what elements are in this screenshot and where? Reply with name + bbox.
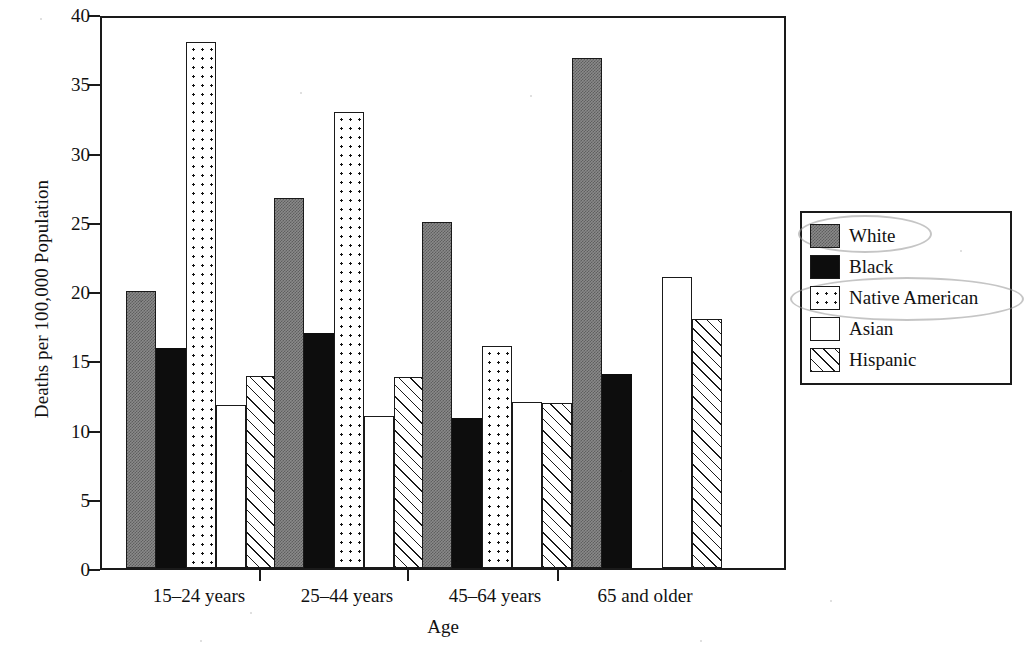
legend-swatch-icon: [810, 317, 840, 341]
legend-item: Hispanic: [810, 344, 1010, 375]
bar: [334, 112, 364, 568]
bar: [602, 374, 632, 568]
bar: [274, 198, 304, 568]
bar: [452, 418, 482, 568]
x-tick-mark: [259, 570, 261, 581]
bar: [542, 403, 572, 568]
legend-label: Hispanic: [849, 350, 917, 369]
legend-item: Asian: [810, 313, 1010, 344]
scan-speckle: [455, 560, 457, 562]
x-tick-mark: [407, 570, 409, 581]
legend-swatch-icon: [810, 224, 840, 248]
scan-speckle: [300, 92, 302, 94]
scan-speckle: [830, 600, 832, 602]
scan-speckle: [700, 640, 702, 642]
y-tick-label: 0: [34, 560, 90, 579]
scan-speckle: [250, 612, 252, 614]
bar: [394, 377, 424, 568]
y-tick-label: 25: [34, 214, 90, 233]
legend-label: Native American: [849, 288, 978, 307]
bar: [126, 291, 156, 568]
scan-speckle: [200, 640, 202, 642]
bar: [662, 277, 692, 568]
legend-label: Black: [849, 257, 893, 276]
y-tick-label: 5: [34, 491, 90, 510]
bar-chart-figure: Deaths per 100,000 Population 0510152025…: [0, 0, 1031, 652]
legend-label: Asian: [849, 319, 893, 338]
x-category-label: 45–64 years: [410, 585, 580, 607]
scan-speckle: [140, 300, 142, 302]
x-tick-mark: [557, 570, 559, 581]
legend-item: White: [810, 220, 1010, 251]
scan-speckle: [530, 95, 532, 97]
bar: [512, 402, 542, 568]
bar: [692, 319, 722, 568]
y-tick-label: 35: [34, 75, 90, 94]
y-tick-label: 15: [34, 352, 90, 371]
bar: [304, 333, 334, 568]
legend-item: Native American: [810, 282, 1010, 313]
legend-swatch-icon: [810, 348, 840, 372]
x-category-label: 65 and older: [560, 585, 730, 607]
legend-label: White: [849, 226, 895, 245]
y-tick-label: 30: [34, 145, 90, 164]
bar: [156, 348, 186, 568]
bar: [246, 376, 276, 569]
bar: [186, 42, 216, 568]
x-category-label: 15–24 years: [114, 585, 284, 607]
bar: [216, 405, 246, 568]
scan-speckle: [40, 18, 42, 20]
bar: [364, 416, 394, 568]
bar: [422, 222, 452, 568]
legend-item: Black: [810, 251, 1010, 282]
bar: [482, 346, 512, 568]
y-tick-label: 10: [34, 422, 90, 441]
x-axis-title: Age: [100, 616, 786, 638]
bar: [572, 58, 602, 568]
chart-legend: WhiteBlackNative AmericanAsianHispanic: [800, 211, 1012, 385]
x-category-label: 25–44 years: [262, 585, 432, 607]
plot-area: [100, 16, 786, 570]
y-tick-label: 20: [34, 283, 90, 302]
legend-swatch-icon: [810, 286, 840, 310]
legend-swatch-icon: [810, 255, 840, 279]
y-tick-label: 40: [34, 6, 90, 25]
scan-speckle: [620, 470, 622, 472]
plot-inner: [102, 18, 784, 568]
